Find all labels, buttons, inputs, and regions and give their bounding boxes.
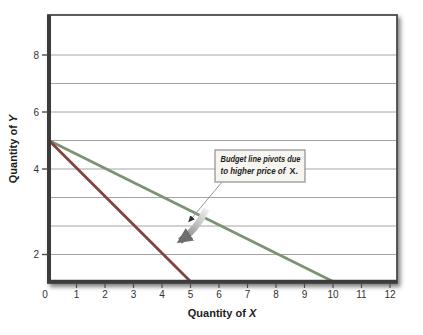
x-axis-title-variable: X	[248, 307, 257, 319]
x-axis-ticks	[77, 284, 391, 288]
x-tick-label: 0	[42, 289, 48, 300]
y-axis-title: Quantity of Y	[7, 113, 19, 183]
x-axis-title-text: Quantity of	[188, 307, 249, 319]
y-tick-labels: 2 4 6 8	[33, 50, 39, 261]
y-tick-label: 2	[33, 249, 39, 260]
y-axis-title-text: Quantity of	[7, 122, 19, 183]
x-tick-label: 3	[131, 289, 137, 300]
x-tick-label: 5	[188, 289, 194, 300]
x-tick-label: 9	[302, 289, 308, 300]
annotation-text-line2-prefix: to higher price of	[221, 166, 288, 176]
x-tick-label: 7	[245, 289, 251, 300]
y-tick-label: 8	[33, 50, 39, 61]
x-tick-label: 12	[384, 289, 396, 300]
y-tick-label: 4	[33, 164, 39, 175]
x-tick-labels: 0 1 2 3 4 5 6 7 8 9 10 11 12	[42, 289, 396, 300]
x-tick-label: 8	[273, 289, 279, 300]
budget-line-chart: 0 1 2 3 4 5 6 7 8 9 10 11 12 2 4 6 8 Qua…	[0, 0, 423, 335]
x-tick-label: 10	[327, 289, 339, 300]
budget-line-figure: 0 1 2 3 4 5 6 7 8 9 10 11 12 2 4 6 8 Qua…	[0, 0, 423, 335]
y-axis-title-variable: Y	[7, 113, 19, 122]
x-tick-label: 11	[356, 289, 367, 300]
y-tick-label: 6	[33, 107, 39, 118]
x-axis-title: Quantity of X	[188, 307, 257, 319]
x-tick-label: 6	[216, 289, 222, 300]
x-tick-label: 4	[159, 289, 165, 300]
x-tick-label: 1	[74, 289, 80, 300]
annotation-text-line2-variable: X.	[290, 166, 299, 176]
annotation-text-line2: to higher price of X.	[221, 166, 299, 176]
annotation-text-line1: Budget line pivots due	[221, 154, 301, 164]
x-tick-label: 2	[102, 289, 108, 300]
